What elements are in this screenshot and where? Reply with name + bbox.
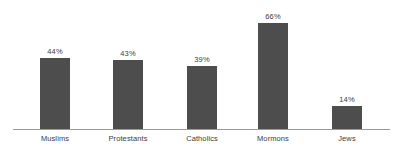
bar-value-label: 44% [18,47,92,56]
plot-area: 44% Muslims 43% Protestants 39% Catholic… [0,0,404,151]
bar-rect[interactable] [332,106,362,129]
bar-rect[interactable] [113,60,143,129]
category-label: Protestants [91,134,165,143]
bar-group: 43% Protestants [91,0,165,151]
category-label: Muslims [18,134,92,143]
bar-value-label: 14% [310,95,384,104]
bar-rect[interactable] [187,66,217,129]
bar-group: 39% Catholics [165,0,239,151]
bar-group: 66% Mormons [236,0,310,151]
category-label: Catholics [165,134,239,143]
bar-chart: 44% Muslims 43% Protestants 39% Catholic… [0,0,404,151]
bar-group: 44% Muslims [18,0,92,151]
bar-value-label: 43% [91,49,165,58]
bar-value-label: 39% [165,55,239,64]
bar-rect[interactable] [40,58,70,129]
category-label: Mormons [236,134,310,143]
bar-rect[interactable] [258,23,288,129]
bar-group: 14% Jews [310,0,384,151]
bar-value-label: 66% [236,12,310,21]
category-label: Jews [310,134,384,143]
